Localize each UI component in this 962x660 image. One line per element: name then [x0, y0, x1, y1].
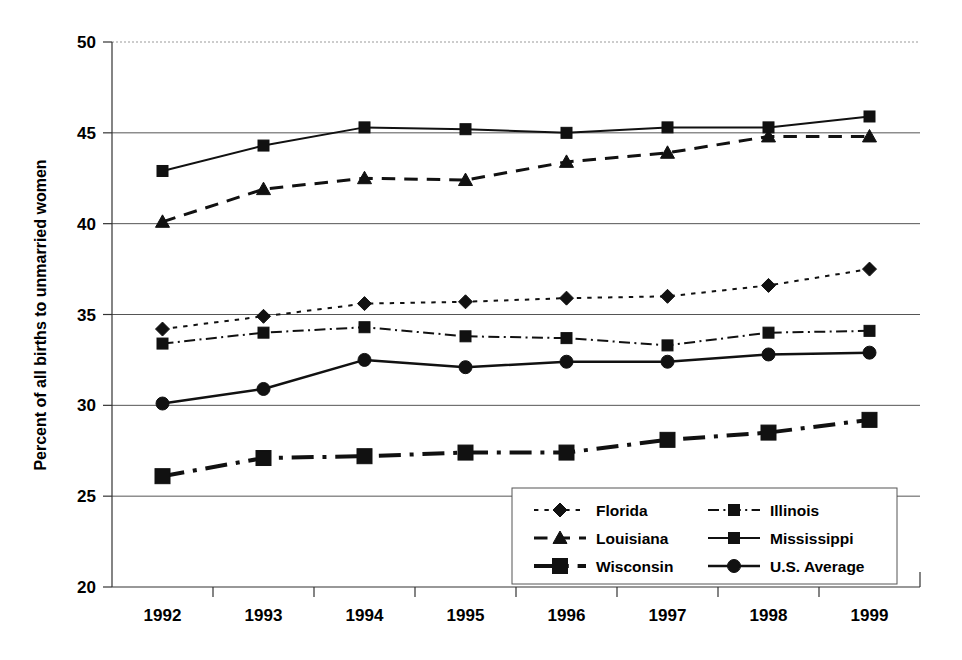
data-point-marker-square: [763, 122, 774, 133]
data-point-marker-circle: [560, 355, 573, 368]
x-tick-label: 1992: [144, 606, 182, 625]
chart-legend[interactable]: FloridaIllinoisLouisianaMississippiWisco…: [512, 488, 897, 584]
data-point-marker-square: [155, 469, 170, 484]
legend-item-u-s-average[interactable]: U.S. Average: [708, 558, 865, 575]
data-point-marker-square: [864, 111, 875, 122]
data-point-marker-square: [256, 451, 271, 466]
data-point-marker-square: [561, 127, 572, 138]
y-tick-label: 25: [77, 487, 96, 506]
data-point-marker-circle: [156, 397, 169, 410]
data-point-marker-circle: [257, 382, 270, 395]
y-tick-label: 40: [77, 215, 96, 234]
data-point-marker-square: [763, 327, 774, 338]
data-point-marker-square: [458, 445, 473, 460]
data-point-marker-square: [157, 165, 168, 176]
data-point-marker-square: [864, 325, 875, 336]
data-point-marker-square: [460, 331, 471, 342]
data-point-marker-circle: [661, 355, 674, 368]
data-point-marker-circle: [762, 348, 775, 361]
y-tick-label: 35: [77, 306, 96, 325]
data-point-marker-square: [357, 449, 372, 464]
x-tick-label: 1993: [245, 606, 283, 625]
x-tickmarks: [213, 587, 819, 597]
data-point-marker-square: [258, 140, 269, 151]
data-point-marker-square: [559, 445, 574, 460]
x-tick-label: 1994: [346, 606, 384, 625]
y-tick-label: 50: [77, 33, 96, 52]
chart-page: 20253035404550 1992199319941995199619971…: [0, 0, 962, 660]
x-tick-labels: 19921993199419951996199719981999: [144, 606, 889, 625]
data-point-marker-circle: [728, 560, 741, 573]
legend-label: Louisiana: [596, 530, 669, 547]
legend-label: Wisconsin: [596, 558, 673, 575]
legend-item-wisconsin[interactable]: Wisconsin: [534, 558, 673, 575]
legend-label: Illinois: [770, 502, 819, 519]
legend-label: U.S. Average: [770, 558, 865, 575]
data-point-marker-circle: [459, 361, 472, 374]
data-point-marker-square: [157, 338, 168, 349]
data-point-marker-square: [729, 533, 740, 544]
x-tick-label: 1996: [548, 606, 586, 625]
data-point-marker-square: [553, 559, 568, 574]
y-tick-label: 30: [77, 396, 96, 415]
data-point-marker-square: [258, 327, 269, 338]
data-point-marker-square: [761, 425, 776, 440]
y-tick-label: 20: [77, 578, 96, 597]
data-point-marker-square: [359, 322, 370, 333]
data-point-marker-square: [460, 124, 471, 135]
legend-label: Florida: [596, 502, 648, 519]
data-point-marker-square: [660, 432, 675, 447]
data-point-marker-square: [561, 333, 572, 344]
data-point-marker-square: [662, 340, 673, 351]
data-point-marker-square: [359, 122, 370, 133]
line-chart: 20253035404550 1992199319941995199619971…: [0, 0, 962, 660]
data-point-marker-square: [662, 122, 673, 133]
y-axis-title: Percent of all births to unmarried women: [32, 159, 49, 470]
x-tick-label: 1999: [851, 606, 889, 625]
data-point-marker-square: [729, 505, 740, 516]
data-point-marker-circle: [863, 346, 876, 359]
data-point-marker-square: [862, 412, 877, 427]
y-tick-label: 45: [77, 124, 96, 143]
legend-label: Mississippi: [770, 530, 854, 547]
svg-text:Percent of all births to unmar: Percent of all births to unmarried women: [32, 159, 49, 470]
y-tick-labels: 20253035404550: [77, 33, 112, 597]
x-tick-label: 1997: [649, 606, 687, 625]
data-point-marker-circle: [358, 353, 371, 366]
x-tick-label: 1995: [447, 606, 485, 625]
x-tick-label: 1998: [750, 606, 788, 625]
